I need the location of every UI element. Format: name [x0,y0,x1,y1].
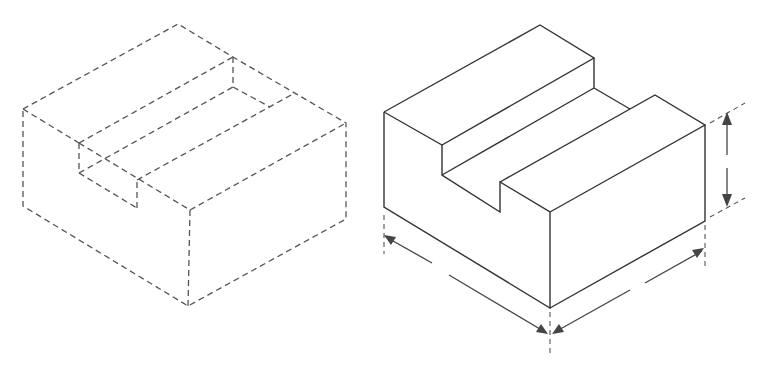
arrow-right-icon [692,248,704,258]
arrow-up-icon [722,112,732,125]
arrow-left-icon [384,235,396,245]
solid-isometric-view [384,25,705,308]
isometric-drawing [0,0,761,367]
height-dimension [710,103,745,217]
dashed-isometric-view [23,24,346,306]
depth-dimension [552,225,705,334]
arrow-down-icon [722,194,732,207]
width-dimension [384,215,550,356]
arrow-left-icon [552,324,564,334]
arrow-right-icon [536,324,548,334]
